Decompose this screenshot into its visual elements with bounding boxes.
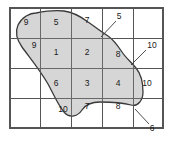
cell-r3c5: 10 (142, 78, 152, 88)
cell-r1c2: 5 (54, 17, 59, 27)
callout-5-label: 5 (117, 11, 122, 21)
cell-r2c2: 1 (54, 47, 59, 57)
cell-r3c2: 6 (54, 78, 59, 88)
figure-canvas: 9579128634101078 5106 (0, 0, 172, 141)
cell-r2c4: 8 (116, 49, 121, 59)
cell-r2c1: 9 (32, 40, 37, 50)
cell-r3c4: 4 (116, 78, 121, 88)
cell-r2c3: 2 (85, 47, 90, 57)
cell-r4c4: 8 (116, 101, 121, 111)
cell-r4c2: 10 (58, 104, 68, 114)
callout-10-label: 10 (147, 40, 157, 50)
cell-r4c3: 7 (85, 101, 90, 111)
grid-region-figure: 9579128634101078 5106 (0, 0, 172, 141)
callout-6-label: 6 (150, 123, 155, 133)
cell-r3c3: 3 (85, 78, 90, 88)
cell-r1c3: 7 (85, 15, 90, 25)
shaded-region (17, 11, 143, 116)
callout-5-leader-line (101, 21, 116, 37)
cell-r1c1: 9 (24, 17, 29, 27)
callout-6-leader-line (135, 109, 149, 124)
